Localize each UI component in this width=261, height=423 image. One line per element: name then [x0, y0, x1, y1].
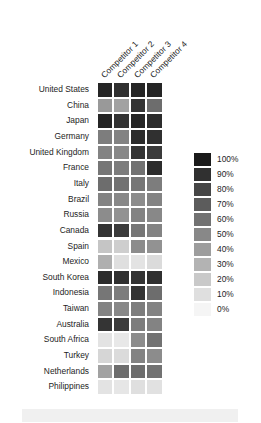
heatmap-cell — [130, 82, 146, 98]
heatmap-cell — [97, 348, 113, 364]
row-label-turkey: Turkey — [0, 348, 93, 364]
legend-swatch — [193, 302, 212, 317]
legend-entry: 40% — [193, 242, 259, 257]
legend-label: 100% — [217, 154, 238, 164]
row-label-brazil: Brazil — [0, 192, 93, 208]
heatmap-cell — [130, 98, 146, 114]
heatmap-cell — [146, 113, 162, 129]
heatmap-cell — [146, 270, 162, 286]
heatmap-cell — [113, 317, 129, 333]
heatmap-cell — [146, 98, 162, 114]
row-label-japan: Japan — [0, 113, 93, 129]
row-label-australia: Australia — [0, 317, 93, 333]
row-label-germany: Germany — [0, 129, 93, 145]
heatmap-cell — [130, 192, 146, 208]
heatmap-figure: Competitor 1Competitor 2Competitor 3Comp… — [0, 0, 261, 423]
row-label-taiwan: Taiwan — [0, 301, 93, 317]
legend-label: 40% — [217, 244, 234, 254]
row-label-france: France — [0, 160, 93, 176]
legend-swatch — [193, 182, 212, 197]
row-label-mexico: Mexico — [0, 254, 93, 270]
legend-label: 10% — [217, 289, 234, 299]
heatmap-cell — [130, 129, 146, 145]
heatmap-cell — [97, 379, 113, 395]
legend-entry: 30% — [193, 257, 259, 272]
heatmap-cell — [130, 301, 146, 317]
heatmap-cell — [146, 176, 162, 192]
heatmap-cell — [146, 379, 162, 395]
heatmap-cell — [97, 317, 113, 333]
heatmap-cell — [113, 239, 129, 255]
heatmap-cell — [113, 82, 129, 98]
heatmap-cell — [113, 348, 129, 364]
heatmap-cell — [97, 270, 113, 286]
heatmap-cell — [146, 160, 162, 176]
heatmap-cell — [146, 207, 162, 223]
heatmap-cell — [97, 192, 113, 208]
legend-swatch — [193, 257, 212, 272]
heatmap-cell — [130, 113, 146, 129]
heatmap-cell — [146, 192, 162, 208]
heatmap-cell — [146, 301, 162, 317]
bottom-band — [22, 409, 238, 422]
heatmap-cell — [130, 379, 146, 395]
legend-entry: 70% — [193, 197, 259, 212]
heatmap-cell — [113, 145, 129, 161]
heatmap-cell — [146, 364, 162, 380]
row-label-russia: Russia — [0, 207, 93, 223]
legend-entry: 0% — [193, 302, 259, 317]
legend-label: 60% — [217, 214, 234, 224]
heatmap-cell — [97, 301, 113, 317]
heatmap-cell — [97, 223, 113, 239]
heatmap-cell — [113, 254, 129, 270]
legend-label: 30% — [217, 259, 234, 269]
heatmap-cell — [130, 223, 146, 239]
heatmap-cell — [97, 364, 113, 380]
heatmap-cell — [130, 348, 146, 364]
heatmap-cell — [97, 254, 113, 270]
heatmap-cell — [113, 379, 129, 395]
heatmap-cell — [113, 160, 129, 176]
heatmap-cell — [97, 239, 113, 255]
row-label-south-africa: South Africa — [0, 332, 93, 348]
heatmap-cell — [97, 145, 113, 161]
legend-entry: 20% — [193, 272, 259, 287]
legend-entry: 90% — [193, 167, 259, 182]
heatmap-cell — [113, 98, 129, 114]
legend-swatch — [193, 197, 212, 212]
heatmap-cell — [130, 364, 146, 380]
row-label-china: China — [0, 98, 93, 114]
legend-swatch — [193, 152, 212, 167]
heatmap-cell — [130, 254, 146, 270]
heatmap-cell — [146, 254, 162, 270]
heatmap-cell — [146, 223, 162, 239]
heatmap-cell — [146, 145, 162, 161]
row-label-united-states: United States — [0, 82, 93, 98]
legend-entry: 100% — [193, 152, 259, 167]
legend-entry: 60% — [193, 212, 259, 227]
legend-label: 80% — [217, 184, 234, 194]
row-label-netherlands: Netherlands — [0, 364, 93, 380]
heatmap-cell — [130, 270, 146, 286]
heatmap-cell — [113, 285, 129, 301]
heatmap-cell — [113, 223, 129, 239]
heatmap-cell — [113, 364, 129, 380]
heatmap-cell — [113, 176, 129, 192]
legend-label: 20% — [217, 274, 234, 284]
row-label-south-korea: South Korea — [0, 270, 93, 286]
row-label-canada: Canada — [0, 223, 93, 239]
row-label-italy: Italy — [0, 176, 93, 192]
heatmap-cell — [146, 348, 162, 364]
legend-swatch — [193, 272, 212, 287]
heatmap-cell — [97, 129, 113, 145]
heatmap-cell — [130, 317, 146, 333]
legend-swatch — [193, 242, 212, 257]
row-label-united-kingdom: United Kingdom — [0, 145, 93, 161]
heatmap-grid — [97, 82, 163, 395]
heatmap-cell — [97, 113, 113, 129]
legend-swatch — [193, 287, 212, 302]
legend-entry: 50% — [193, 227, 259, 242]
heatmap-cell — [146, 332, 162, 348]
legend-swatch — [193, 167, 212, 182]
heatmap-cell — [97, 98, 113, 114]
